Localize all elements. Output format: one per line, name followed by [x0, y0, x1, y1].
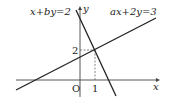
equation-label-1: x+by=2	[30, 6, 71, 17]
diagram-canvas: x+by=2 ax+2y=3 y x O 1 2	[0, 0, 169, 102]
x-tick-label: 1	[92, 83, 98, 94]
x-axis-label: x	[153, 81, 159, 92]
y-axis-label: y	[82, 3, 89, 14]
equation-label-2: ax+2y=3	[110, 6, 157, 17]
y-axis-arrow-icon	[78, 6, 82, 10]
line-ax-plus-2y-eq-3	[16, 18, 156, 90]
y-tick-label: 2	[72, 45, 78, 56]
origin-label: O	[72, 83, 80, 94]
